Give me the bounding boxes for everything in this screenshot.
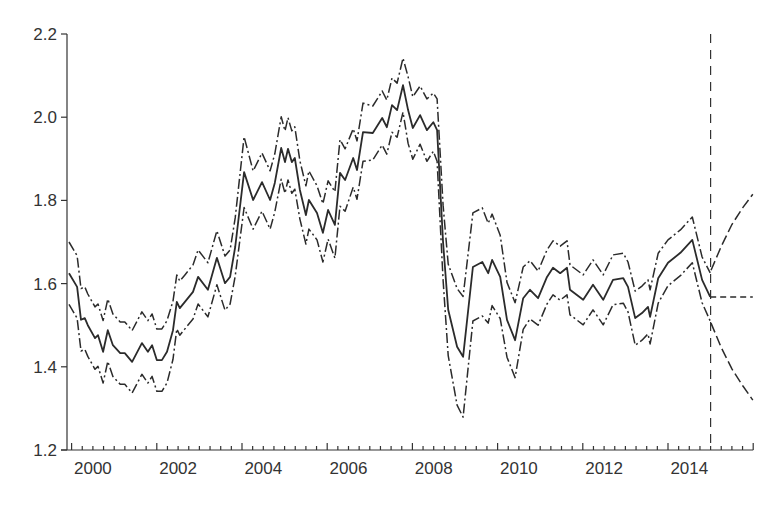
y-tick-label: 1.8: [33, 191, 57, 210]
x-tick-label: 2014: [670, 459, 708, 478]
y-tick-label: 1.6: [33, 275, 57, 294]
y-tick-label: 1.4: [33, 358, 57, 377]
forecast-upper-band: [711, 194, 753, 270]
x-tick-label: 2012: [585, 459, 623, 478]
y-tick-label: 2.0: [33, 108, 57, 127]
x-tick-label: 2000: [74, 459, 112, 478]
lower-confidence-band: [69, 112, 710, 417]
forecast-lower-band: [711, 323, 753, 400]
x-tick-label: 2006: [330, 459, 368, 478]
upper-confidence-band: [69, 58, 710, 331]
x-tick-label: 2002: [159, 459, 197, 478]
x-axis: 20002002200420062008201020122014: [61, 443, 753, 478]
estimate-line: [69, 85, 710, 362]
y-axis: 1.21.41.61.82.02.2: [33, 25, 67, 460]
y-tick-label: 1.2: [33, 441, 57, 460]
x-tick-label: 2004: [244, 459, 282, 478]
y-tick-label: 2.2: [33, 25, 57, 44]
x-tick-label: 2010: [500, 459, 538, 478]
line-chart: 1.21.41.61.82.02.2 200020022004200620082…: [0, 0, 775, 509]
x-tick-label: 2008: [415, 459, 453, 478]
